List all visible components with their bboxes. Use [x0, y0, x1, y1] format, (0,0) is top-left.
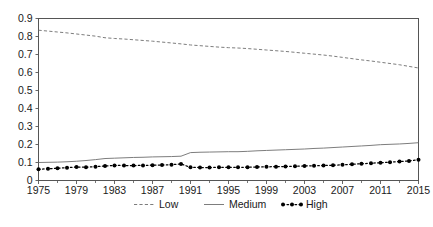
data-point-marker: [369, 161, 373, 165]
plot-frame: [39, 19, 419, 181]
y-axis-tick-label: 0.5: [18, 84, 33, 96]
x-axis-tick-label: 1975: [27, 184, 51, 196]
chart-legend: LowMediumHigh: [134, 198, 328, 210]
data-point-marker: [170, 163, 174, 167]
data-point-marker: [379, 161, 383, 165]
data-point-marker: [265, 165, 269, 169]
data-point-marker: [255, 165, 259, 169]
x-axis-tick-label: 1991: [179, 184, 203, 196]
data-point-marker: [331, 163, 335, 167]
data-point-marker: [37, 167, 41, 171]
data-series-layer: [37, 30, 421, 171]
y-axis-tick-label: 0.1: [18, 156, 33, 168]
data-point-marker: [160, 163, 164, 167]
legend-item-medium[interactable]: Medium: [204, 198, 267, 210]
y-axis-tick-label: 0.8: [18, 30, 33, 42]
data-point-marker: [189, 165, 193, 169]
data-point-marker: [341, 163, 345, 167]
x-axis-tick-label: 1995: [217, 184, 241, 196]
series-line-medium: [39, 143, 419, 163]
data-point-marker: [208, 166, 212, 170]
x-axis-tick-label: 1999: [255, 184, 279, 196]
y-axis-tick-label: 0.4: [18, 102, 33, 114]
data-point-marker: [94, 165, 98, 169]
series-line-low: [39, 30, 419, 68]
data-point-marker: [75, 165, 79, 169]
legend-label-low: Low: [159, 198, 179, 210]
data-point-marker: [284, 164, 288, 168]
y-axis-tick-label: 0.9: [18, 12, 33, 24]
y-axis-tick-label: 0.2: [18, 138, 33, 150]
data-point-marker: [303, 164, 307, 168]
y-axis-tick-label: 0.6: [18, 66, 33, 78]
data-point-marker: [179, 162, 183, 166]
data-point-marker: [322, 164, 326, 168]
x-axis-tick-label: 2011: [369, 184, 392, 196]
data-point-marker: [312, 164, 316, 168]
data-point-marker: [46, 167, 50, 171]
data-point-marker: [246, 165, 250, 169]
data-point-marker: [217, 165, 221, 169]
data-point-marker: [227, 165, 231, 169]
data-point-marker: [236, 165, 240, 169]
legend-label-medium: Medium: [229, 198, 267, 210]
data-point-marker: [274, 165, 278, 169]
data-point-marker: [398, 160, 402, 164]
data-point-marker: [293, 164, 297, 168]
data-point-marker: [198, 166, 202, 170]
data-point-marker: [65, 166, 69, 170]
data-point-marker: [132, 164, 136, 168]
data-point-marker: [388, 160, 392, 164]
plot-border: [39, 19, 419, 181]
y-axis-tick-label: 0.7: [18, 48, 33, 60]
x-axis-tick-label: 1983: [103, 184, 127, 196]
data-point-marker: [360, 162, 364, 166]
data-point-marker: [103, 164, 107, 168]
legend-item-low[interactable]: Low: [134, 198, 179, 210]
y-axis-tick-labels: 00.10.20.30.40.50.60.70.80.9: [18, 12, 33, 186]
data-point-marker: [141, 163, 145, 167]
data-point-marker: [151, 163, 155, 167]
x-axis-tick-label: 1979: [65, 184, 89, 196]
legend-marker: [299, 203, 303, 207]
y-axis-tick-label: 0.3: [18, 120, 33, 132]
x-axis-tick-marks: [39, 181, 419, 185]
data-point-marker: [350, 162, 354, 166]
data-point-marker: [122, 164, 126, 168]
legend-item-high[interactable]: High: [281, 198, 328, 210]
x-axis-tick-labels: 1975197919831987199119951999200320072011…: [27, 184, 431, 196]
line-chart: 00.10.20.30.40.50.60.70.80.9 19751979198…: [0, 0, 433, 227]
chart-canvas: 00.10.20.30.40.50.60.70.80.9 19751979198…: [0, 0, 433, 227]
x-axis-tick-label: 2015: [407, 184, 431, 196]
data-point-marker: [407, 159, 411, 163]
data-point-marker: [84, 165, 88, 169]
legend-marker: [290, 203, 294, 207]
x-axis-tick-label: 1987: [141, 184, 165, 196]
data-point-marker: [113, 163, 117, 167]
legend-label-high: High: [306, 198, 328, 210]
legend-marker: [281, 203, 285, 207]
x-axis-tick-label: 2007: [331, 184, 355, 196]
x-axis-tick-label: 2003: [293, 184, 317, 196]
data-point-marker: [417, 158, 421, 162]
data-point-marker: [56, 166, 60, 170]
